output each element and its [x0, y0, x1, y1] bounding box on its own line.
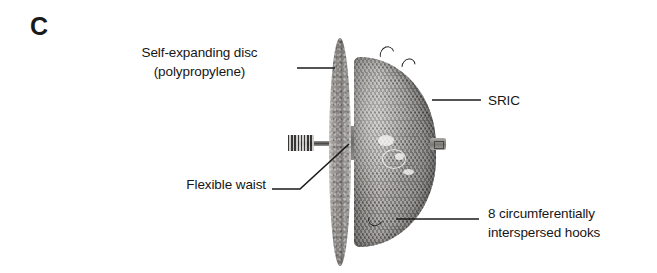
- label-self-expanding-disc: Self-expanding disc (polypropylene): [112, 44, 287, 81]
- label-sric: SRIC: [488, 92, 520, 111]
- leader-line-waist: [272, 144, 349, 189]
- label-interspersed-hooks: 8 circumferentially interspersed hooks: [488, 205, 600, 242]
- figure-panel-c: C Self-expanding disc (polypropyl: [0, 0, 657, 273]
- label-flexible-waist: Flexible waist: [138, 176, 266, 195]
